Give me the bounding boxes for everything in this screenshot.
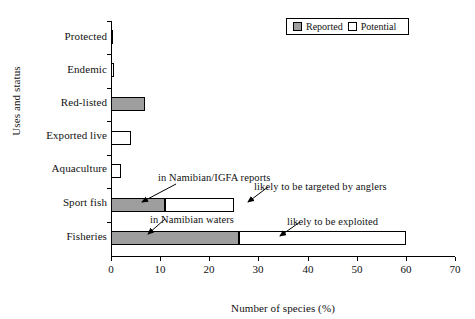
x-tick-label-30: 30 xyxy=(238,264,278,275)
bar-segment-endemic-potential[interactable] xyxy=(111,63,114,77)
bar-row xyxy=(111,198,455,212)
legend-item-potential: Potential xyxy=(348,22,397,32)
bar-segment-sport-fish-reported[interactable] xyxy=(111,198,165,212)
x-tick-label-40: 40 xyxy=(288,264,328,275)
bar-row xyxy=(111,97,455,111)
x-tick-label-60: 60 xyxy=(386,264,426,275)
annotation-likely-targeted-by-anglers: likely to be targeted by anglers xyxy=(254,181,387,192)
y-axis-tick xyxy=(107,121,111,122)
chart-figure: Uses and status Protected Endemic Red-li… xyxy=(0,0,475,319)
x-axis-tick xyxy=(209,257,210,261)
y-axis-tick xyxy=(107,155,111,156)
y-tick-label-fisheries: Fisheries xyxy=(7,231,107,242)
y-axis-tick xyxy=(107,54,111,55)
x-tick-label-20: 20 xyxy=(189,264,229,275)
bar-segment-protected-reported[interactable] xyxy=(111,30,113,44)
legend-item-reported: Reported xyxy=(293,22,343,32)
x-axis-tick xyxy=(308,257,309,261)
legend-label-reported: Reported xyxy=(306,22,343,32)
y-axis-tick xyxy=(107,188,111,189)
x-tick-label-0: 0 xyxy=(91,264,131,275)
bar-segment-fisheries-reported[interactable] xyxy=(111,231,239,245)
y-tick-label-aquaculture: Aquaculture xyxy=(7,163,107,174)
y-axis-tick xyxy=(107,21,111,22)
y-tick-label-red-listed: Red-listed xyxy=(7,97,107,108)
x-tick-label-10: 10 xyxy=(140,264,180,275)
x-tick-label-50: 50 xyxy=(337,264,377,275)
y-axis-tick xyxy=(107,222,111,223)
x-axis-tick xyxy=(455,257,456,261)
x-axis-title: Number of species (%) xyxy=(111,302,455,314)
y-axis-tick xyxy=(107,88,111,89)
chart-legend: Reported Potential xyxy=(286,18,409,35)
y-tick-label-sport-fish: Sport fish xyxy=(7,197,107,208)
legend-label-potential: Potential xyxy=(361,22,397,32)
x-axis-tick xyxy=(160,257,161,261)
annotation-in-namibian-waters: in Namibian waters xyxy=(150,214,234,225)
x-axis-tick xyxy=(258,257,259,261)
bar-segment-red-listed-reported[interactable] xyxy=(111,97,145,111)
x-axis-tick xyxy=(111,257,112,261)
y-tick-label-endemic: Endemic xyxy=(7,64,107,75)
annotation-likely-to-be-exploited: likely to be exploited xyxy=(287,216,378,227)
x-axis-tick xyxy=(406,257,407,261)
bar-segment-exported-live-potential[interactable] xyxy=(111,131,131,145)
bar-row xyxy=(111,231,455,245)
legend-swatch-reported-icon xyxy=(293,22,302,31)
x-axis-tick xyxy=(357,257,358,261)
bar-row xyxy=(111,131,455,145)
x-axis-line xyxy=(111,256,455,257)
bar-row xyxy=(111,63,455,77)
y-tick-label-protected: Protected xyxy=(7,31,107,42)
bar-segment-sport-fish-potential[interactable] xyxy=(165,198,234,212)
bar-segment-aquaculture-potential[interactable] xyxy=(111,164,121,178)
bar-segment-fisheries-potential[interactable] xyxy=(239,231,406,245)
legend-swatch-potential-icon xyxy=(348,22,357,31)
x-tick-label-70: 70 xyxy=(435,264,475,275)
y-tick-label-exported-live: Exported live xyxy=(7,130,107,141)
